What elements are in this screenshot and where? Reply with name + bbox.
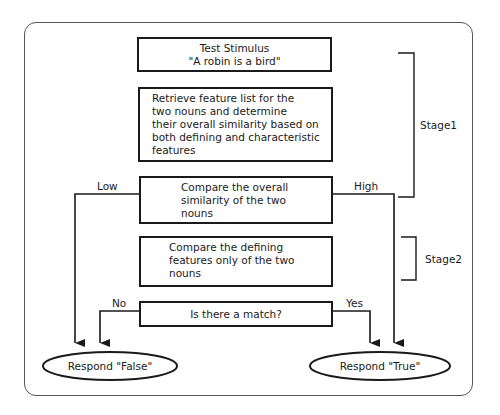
edge-label-high: High xyxy=(354,180,378,192)
test-stimulus-sentence: "A robin is a bird" xyxy=(188,55,280,68)
flowchart-canvas: Test Stimulus "A robin is a bird" Retrie… xyxy=(0,0,500,415)
high-connector xyxy=(332,194,394,343)
stage2-label: Stage2 xyxy=(425,253,462,265)
edge-label-low: Low xyxy=(97,180,118,192)
respond-true-label: Respond "True" xyxy=(310,360,450,372)
compare-overall-text: Compare the overall similarity of the tw… xyxy=(181,181,323,220)
node-retrieve-features: Retrieve feature list for the two nouns … xyxy=(138,87,333,162)
yes-connector xyxy=(332,311,370,343)
retrieve-features-text: Retrieve feature list for the two nouns … xyxy=(152,92,323,157)
no-connector xyxy=(100,311,139,343)
compare-defining-text: Compare the defining features only of th… xyxy=(169,241,323,280)
edge-label-yes: Yes xyxy=(346,297,363,309)
stage1-bracket xyxy=(398,53,414,197)
test-stimulus-title: Test Stimulus xyxy=(188,42,280,55)
node-test-stimulus: Test Stimulus "A robin is a bird" xyxy=(137,37,332,72)
node-compare-overall: Compare the overall similarity of the tw… xyxy=(139,176,333,224)
stage1-label: Stage1 xyxy=(420,119,457,131)
node-compare-defining: Compare the defining features only of th… xyxy=(139,236,333,287)
respond-false-label: Respond "False" xyxy=(43,360,177,372)
stage2-bracket xyxy=(401,237,416,280)
node-is-there-a-match: Is there a match? xyxy=(139,301,333,327)
edge-label-no: No xyxy=(112,297,126,309)
match-question-text: Is there a match? xyxy=(190,308,282,321)
low-connector xyxy=(75,194,139,343)
